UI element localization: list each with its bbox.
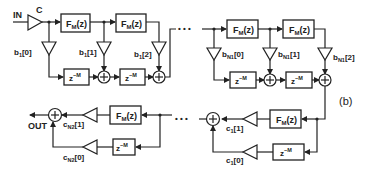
fm-block-n1-2: FM(z) (283, 20, 314, 38)
coeff-label-bn1-1: bN1[1] (278, 50, 300, 60)
svg-text:FM(z): FM(z) (66, 19, 87, 30)
coeff-amp-b1-2 (152, 42, 166, 55)
delay-block-c1: z−M (273, 144, 304, 160)
coeff-label-cn2-0: cN2[0] (63, 153, 85, 163)
coeff-amp-cn2-0 (83, 140, 97, 154)
wire (314, 29, 325, 48)
coeff-amp-c1-0 (243, 145, 257, 159)
svg-text:FM(z): FM(z) (289, 25, 310, 36)
coeff-label-c1-1: c1[1] (226, 124, 244, 134)
delay-block-n1-2: z−M (286, 72, 312, 88)
wire (146, 22, 159, 42)
adder-bn1-1 (264, 74, 276, 86)
coeff-label-bn1-0: bN1[0] (222, 50, 244, 60)
delay-block-1: z−M (64, 69, 89, 85)
fm-block-n1-1: FM(z) (227, 20, 258, 38)
coeff-amp-bn1-1 (263, 48, 277, 60)
figure-label: (b) (339, 95, 352, 107)
coeff-amp-b1-1 (97, 42, 111, 55)
coeff-label-b1-2: b1[2] (134, 50, 152, 60)
fm-block-2: FM(z) (116, 14, 146, 32)
adder-cn2 (49, 109, 62, 122)
fm-block-c1: FM(z) (270, 110, 301, 128)
coeff-amp-cn2-1 (83, 108, 97, 122)
wire (305, 119, 317, 152)
input-label: IN (13, 10, 22, 20)
filter-structure-diagram: IN C FM(z) FM(z) b1[0] b1[1] b1[2] z−M (0, 0, 366, 172)
fm-block-1: FM(z) (61, 14, 90, 32)
coeff-amp-bn1-0 (207, 48, 221, 60)
delay-block-2: z−M (120, 69, 145, 85)
adder-b1-1 (98, 71, 110, 83)
coeff-label-c1-0: c1[0] (226, 156, 244, 166)
ellipsis-bottom: • • • (175, 114, 188, 123)
coeff-amp-bn1-2 (318, 48, 332, 60)
output-label: OUT (28, 121, 48, 131)
delay-block-cn2: z−M (113, 139, 135, 155)
coeff-amp-b1-0 (42, 42, 56, 55)
wire (317, 86, 325, 119)
fm-block-cn2: FM(z) (110, 106, 141, 124)
coeff-label-b1-0: b1[0] (14, 48, 32, 58)
adder-b1-2 (153, 71, 165, 83)
delay-block-n1-1: z−M (230, 72, 256, 88)
wire (214, 60, 229, 80)
coeff-label-b1-1: b1[1] (79, 48, 97, 58)
coeff-label-cn2-1: cN2[1] (63, 120, 85, 130)
svg-text:FM(z): FM(z) (121, 19, 142, 30)
input-gain-amplifier (28, 15, 42, 30)
coeff-amp-c1-1 (243, 112, 257, 126)
adder-bn1-2 (319, 74, 331, 86)
coeff-label-bn1-2: bN1[2] (333, 53, 355, 63)
input-gain-label: C (36, 5, 43, 15)
svg-text:FM(z): FM(z) (276, 115, 297, 126)
ellipsis-top: • • • (178, 24, 191, 33)
svg-text:FM(z): FM(z) (233, 25, 254, 36)
wire (49, 55, 63, 77)
adder-c1 (207, 113, 220, 126)
wire (165, 29, 176, 77)
svg-text:FM(z): FM(z) (116, 111, 137, 122)
